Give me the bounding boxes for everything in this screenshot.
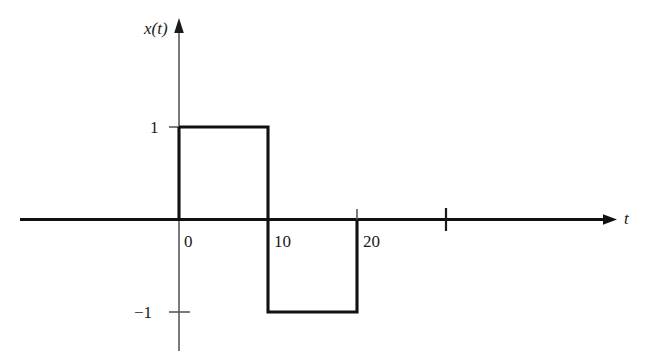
x-axis-label: t bbox=[624, 210, 629, 227]
y-axis-arrowhead bbox=[174, 18, 184, 33]
x-tick-label-20: 20 bbox=[363, 233, 380, 250]
y-tick-label-negative-1: −1 bbox=[134, 304, 152, 321]
waveform-svg bbox=[0, 0, 650, 355]
figure-root: x(t) t 1 −1 0 10 20 bbox=[0, 0, 650, 355]
x-axis-arrowhead bbox=[603, 214, 617, 225]
y-tick-label-positive-1: 1 bbox=[150, 119, 159, 136]
y-axis-label: x(t) bbox=[144, 20, 168, 37]
x-tick-label-0: 0 bbox=[184, 233, 193, 250]
x-tick-label-10: 10 bbox=[274, 233, 291, 250]
